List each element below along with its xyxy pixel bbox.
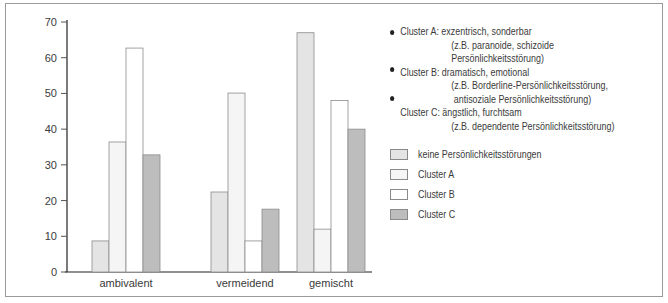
- bar: [126, 48, 143, 272]
- legend-swatch: [390, 209, 408, 220]
- legend: keine Persönlichkeitsstörungen Cluster A…: [390, 144, 563, 224]
- x-category-label: ambivalent: [99, 277, 152, 289]
- bullet-icon: [390, 67, 394, 72]
- y-tick-label: 50: [45, 87, 57, 99]
- legend-swatch: [390, 189, 408, 200]
- y-tick-label: 0: [51, 266, 57, 278]
- y-tick-label: 70: [45, 16, 57, 28]
- legend-swatch: [390, 169, 408, 180]
- cluster-c-label: Cluster C: ängstlich, furchtsam: [400, 106, 522, 118]
- bar: [348, 129, 365, 272]
- bullet-icon: [390, 96, 394, 101]
- cluster-b-example-2: antisoziale Persönlichkeitsstörung): [400, 93, 626, 107]
- bar: [143, 155, 160, 272]
- bar: [314, 229, 331, 272]
- cluster-c-note: Cluster C: ängstlich, furchtsam (z.B. de…: [390, 106, 626, 133]
- x-category-label: gemischt: [309, 277, 353, 289]
- legend-item-cluster-a: Cluster A: [390, 164, 563, 184]
- cluster-b-example-1: (z.B. Borderline-Persönlichkeitsstörung,: [400, 79, 626, 93]
- bar: [262, 209, 279, 272]
- y-tick-label: 60: [45, 52, 57, 64]
- cluster-a-example: (z.B. paranoide, schizoide Persönlichkei…: [400, 39, 626, 66]
- legend-item-cluster-c: Cluster C: [390, 204, 563, 224]
- bar: [245, 241, 262, 272]
- legend-label: Cluster B: [418, 188, 455, 200]
- bar: [92, 241, 109, 272]
- cluster-b-label: Cluster B: dramatisch, emotional: [400, 66, 529, 78]
- bar: [331, 101, 348, 272]
- legend-swatch: [390, 149, 408, 160]
- bar: [228, 93, 245, 272]
- cluster-descriptions: Cluster A: exzentrisch, sonderbar (z.B. …: [390, 25, 626, 133]
- y-tick-label: 30: [45, 159, 57, 171]
- cluster-c-example: (z.B. dependente Persönlichkeitsstörung): [400, 120, 626, 134]
- legend-label: keine Persönlichkeitsstörungen: [418, 148, 542, 160]
- bar: [109, 142, 126, 272]
- y-tick-label: 20: [45, 195, 57, 207]
- y-tick-label: 40: [45, 123, 57, 135]
- bar: [211, 192, 228, 272]
- legend-item-cluster-b: Cluster B: [390, 184, 563, 204]
- cluster-a-label: Cluster A: exzentrisch, sonderbar: [400, 25, 531, 37]
- legend-item-none: keine Persönlichkeitsstörungen: [390, 144, 563, 164]
- legend-label: Cluster C: [418, 208, 455, 220]
- cluster-b-note: Cluster B: dramatisch, emotional (z.B. B…: [390, 66, 626, 107]
- bullet-icon: [390, 30, 394, 35]
- legend-label: Cluster A: [418, 168, 454, 180]
- x-category-label: vermeidend: [216, 277, 273, 289]
- y-tick-label: 10: [45, 230, 57, 242]
- cluster-a-note: Cluster A: exzentrisch, sonderbar (z.B. …: [390, 25, 626, 66]
- bar: [297, 33, 314, 272]
